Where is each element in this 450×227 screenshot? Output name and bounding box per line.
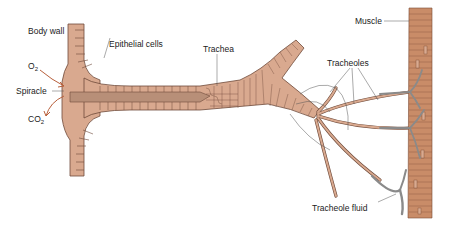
label-o2: O2: [28, 62, 38, 72]
muscle-fiber: [408, 8, 432, 218]
label-epithelial-cells: Epithelial cells: [109, 40, 163, 49]
o2-text: O: [28, 61, 35, 71]
label-trachea: Trachea: [203, 45, 234, 54]
label-tracheoles: Tracheoles: [327, 59, 369, 68]
o2-subscript: 2: [35, 66, 38, 72]
co2-text: CO: [28, 114, 41, 124]
label-tracheole-fluid: Tracheole fluid: [312, 204, 367, 213]
label-body-wall: Body wall: [28, 27, 64, 36]
label-spiracle: Spiracle: [16, 87, 47, 96]
label-co2: CO2: [28, 115, 44, 125]
o2-arrow-icon: [40, 70, 64, 86]
co2-subscript: 2: [41, 119, 44, 125]
trachea: [70, 40, 320, 118]
tracheal-system-diagram: [0, 0, 450, 227]
label-muscle: Muscle: [355, 17, 382, 26]
